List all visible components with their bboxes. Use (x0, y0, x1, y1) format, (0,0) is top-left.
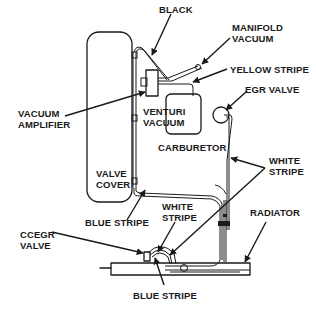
label-black: BLACK (159, 4, 193, 15)
ccegr-valve-shape (144, 252, 150, 261)
label-blue-stripe-lower: BLUE STRIPE (133, 290, 197, 301)
label-vacuum-amplifier: VACUUM AMPLIFIER (18, 108, 70, 130)
vacuum-hose-diagram: BLACK MANIFOLD VACUUM YELLOW STRIPE EGR … (0, 0, 316, 315)
label-radiator: RADIATOR (250, 207, 300, 218)
label-ccegr-valve: CCEGR VALVE (20, 229, 55, 251)
label-manifold-vacuum: MANIFOLD VACUUM (232, 22, 283, 44)
label-white-stripe-right: WHITE STRIPE (269, 155, 304, 177)
label-venturi-vacuum: VENTURI VACUUM (143, 106, 185, 128)
label-white-stripe-center: WHITE STRIPE (162, 201, 197, 223)
vacuum-amplifier-shape (146, 70, 158, 96)
label-valve-cover: VALVE COVER (96, 168, 130, 190)
label-blue-stripe-upper: BLUE STRIPE (85, 217, 149, 228)
label-egr-valve: EGR VALVE (245, 84, 299, 95)
label-carburetor: CARBURETOR (158, 142, 226, 153)
label-yellow-stripe: YELLOW STRIPE (230, 64, 309, 75)
